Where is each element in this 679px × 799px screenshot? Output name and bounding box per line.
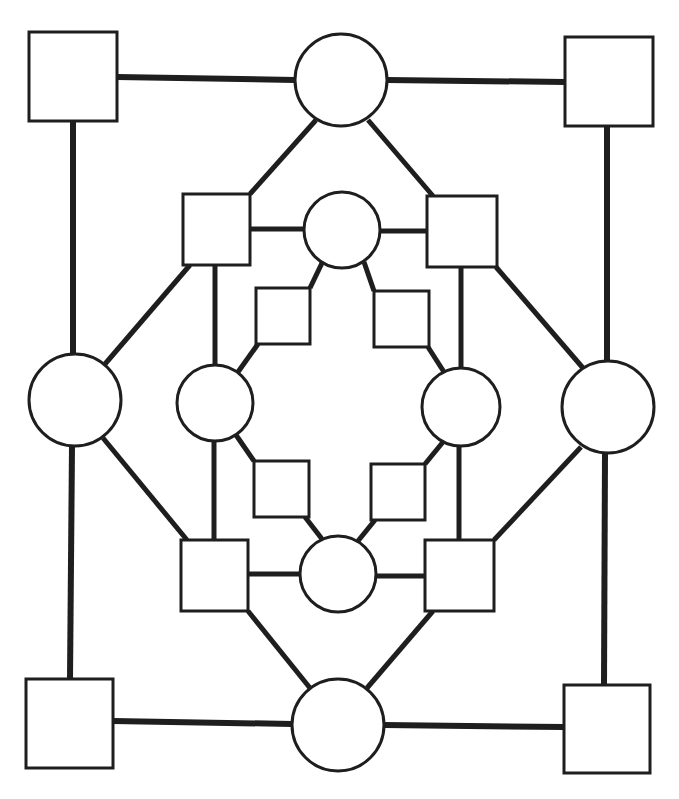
edge-ci-outer-top-to-sq-outer-tr [387, 80, 565, 82]
edge-ci-outer-bottom-to-sq-outer-br [384, 725, 564, 727]
circle-node-ci-mid-left [177, 365, 253, 441]
edge-sq-outer-bl-to-ci-outer-bottom [113, 721, 292, 724]
square-node-sq-mid-tl [183, 194, 250, 265]
network-diagram [0, 0, 679, 799]
square-node-sq-mid-tr [427, 196, 497, 267]
square-node-sq-mid-bl [181, 540, 248, 611]
square-node-sq-inner-tr [374, 291, 429, 347]
edge-sq-outer-tl-to-ci-outer-top [117, 77, 295, 80]
circle-node-ci-mid-bottom [300, 536, 376, 612]
square-node-sq-inner-bl [254, 461, 309, 517]
square-node-sq-outer-bl [26, 679, 113, 768]
square-node-sq-inner-br [371, 464, 425, 520]
circle-node-ci-mid-right [422, 368, 500, 446]
circle-node-ci-outer-right [562, 361, 654, 453]
circle-node-ci-outer-bottom [292, 679, 384, 771]
edge-ci-outer-left-to-sq-outer-bl [70, 446, 72, 679]
circle-node-ci-mid-top [304, 192, 380, 268]
square-node-sq-outer-tr [565, 37, 653, 126]
edge-ci-outer-right-to-sq-outer-br [604, 453, 605, 685]
circle-node-ci-outer-top [295, 34, 387, 126]
square-node-sq-outer-br [564, 685, 650, 773]
square-node-sq-outer-tl [29, 32, 117, 121]
square-node-sq-inner-tl [256, 288, 310, 344]
circle-node-ci-outer-left [29, 354, 121, 446]
square-node-sq-mid-br [425, 540, 494, 611]
